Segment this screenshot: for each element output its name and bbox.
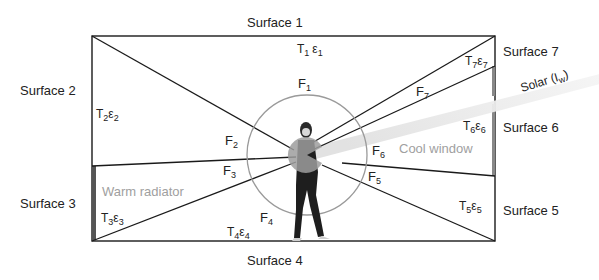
f2-label: F2 [225,133,238,150]
f3-label: F3 [223,163,236,180]
surface-4-label: Surface 4 [247,253,303,268]
surface-7-label: Surface 7 [503,44,559,59]
surface-5-label: Surface 5 [503,203,559,218]
cool-window-bar-upper [492,66,495,96]
room-outline [92,36,495,241]
f6-label: F6 [372,143,385,160]
warm-radiator-label: Warm radiator [102,184,185,199]
f1-label: F1 [298,76,311,93]
t1-e1-label: T1ε1 [297,42,323,58]
surface-6-label: Surface 6 [503,120,559,135]
t7-e7-label: T7ε7 [465,54,488,70]
f4-label: F4 [260,210,273,227]
cool-window-bar-lower [492,104,495,176]
radiant-exchange-diagram: Surface 1 Surface 2 Surface 3 Surface 4 … [0,0,599,280]
t2-e2-label: T2ε2 [96,107,119,123]
t4-e4-label: T4ε4 [227,225,250,241]
cool-window-label: Cool window [399,141,473,156]
t3-e3-label: T3ε3 [101,211,124,227]
t5-e5-label: T5ε5 [459,199,482,215]
t6-e6-label: T6ε6 [463,119,486,135]
f5-label: F5 [368,169,381,186]
warm-radiator-bar [92,166,96,241]
surface-3-label: Surface 3 [20,196,76,211]
surface-1-label: Surface 1 [247,15,303,30]
surface-2-label: Surface 2 [20,83,76,98]
view-factor-lines [92,36,495,241]
f7-label: F7 [416,84,429,101]
